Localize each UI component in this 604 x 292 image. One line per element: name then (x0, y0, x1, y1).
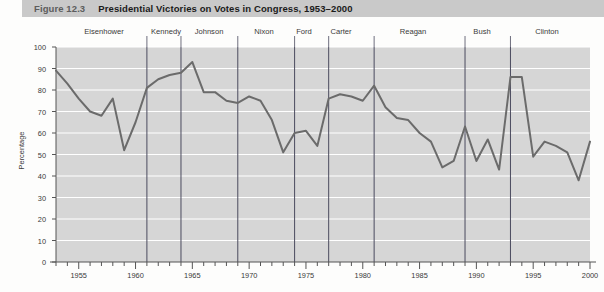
x-axis-tick-marks (56, 262, 590, 269)
y-axis-tick-marks (52, 47, 56, 262)
figure-container: Figure 12.3 Presidential Victories on Vo… (0, 0, 604, 292)
line-chart-plot (0, 0, 604, 292)
